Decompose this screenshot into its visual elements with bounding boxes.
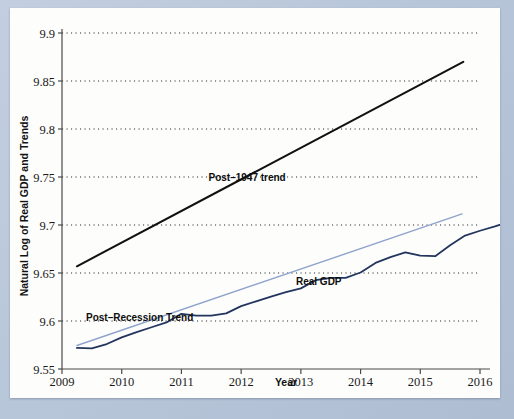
x-tick-label: 2009 (50, 375, 75, 389)
annotation-post-recession-trend: Post–Recession Trend (86, 312, 193, 323)
x-tick-label: 2012 (229, 375, 254, 389)
y-tick-label: 9.9 (39, 27, 55, 41)
x-tick-label: 2010 (109, 375, 134, 389)
y-tick-label: 9.55 (33, 363, 55, 377)
series-line-real-gdp (77, 214, 500, 348)
x-tick-label: 2016 (468, 375, 493, 389)
y-tick-label: 9.85 (33, 75, 55, 89)
figure-paper: 20092010201120122013201420152016 9.559.6… (10, 8, 500, 398)
gdp-trends-chart: 20092010201120122013201420152016 9.559.6… (10, 8, 500, 398)
x-tick-label: 2014 (348, 375, 374, 389)
y-axis-title: Natural Log of Real GDP and Trends (18, 116, 30, 297)
y-tick-label: 9.7 (39, 219, 55, 233)
y-tick-label: 9.65 (33, 267, 55, 281)
y-tick-label: 9.8 (39, 123, 55, 137)
annotation-post-1947-trend: Post–1947 trend (208, 172, 285, 183)
series-line-post-recession-trend (77, 214, 462, 346)
x-tick-label: 2015 (408, 375, 433, 389)
x-axis-title: Year (275, 376, 297, 388)
page-background: 20092010201120122013201420152016 9.559.6… (0, 0, 514, 419)
y-tick-label: 9.75 (33, 171, 55, 185)
y-tick-group: 9.559.69.659.79.759.89.859.9 (33, 27, 62, 377)
y-tick-label: 9.6 (39, 315, 55, 329)
chart-figure: 20092010201120122013201420152016 9.559.6… (10, 8, 500, 398)
x-tick-label: 2011 (169, 375, 194, 389)
x-tick-group: 20092010201120122013201420152016 (50, 369, 493, 389)
annotation-group: Post–1947 trendReal GDPPost–Recession Tr… (86, 172, 342, 323)
series-group (77, 62, 500, 349)
annotation-real-gdp: Real GDP (296, 276, 342, 287)
series-line-post-1947-trend (77, 62, 463, 266)
